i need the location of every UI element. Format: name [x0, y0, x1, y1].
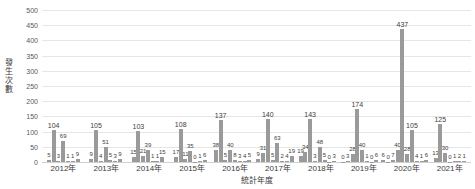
bar-item[interactable]: 63: [275, 10, 279, 162]
bar-item[interactable]: 1: [462, 10, 466, 162]
bar-item[interactable]: 5: [47, 10, 51, 162]
bar-item[interactable]: 125: [438, 10, 442, 162]
bar-item[interactable]: 17: [174, 10, 178, 162]
bar-item[interactable]: 30: [443, 10, 447, 162]
bar-item[interactable]: 1: [365, 10, 369, 162]
bar-item[interactable]: 1: [155, 10, 159, 162]
bar-item[interactable]: 5: [247, 10, 251, 162]
bar-item[interactable]: 69: [61, 10, 65, 162]
bar-item[interactable]: 28: [351, 10, 355, 162]
bar-item[interactable]: 19: [299, 10, 303, 162]
bar-item[interactable]: 6: [374, 10, 378, 162]
bar[interactable]: [410, 130, 414, 162]
bar-item[interactable]: 40: [396, 10, 400, 162]
bar[interactable]: [360, 150, 364, 162]
bar-item[interactable]: 40: [228, 10, 232, 162]
bar-item[interactable]: 4: [285, 10, 289, 162]
bar[interactable]: [104, 147, 108, 163]
bar-item[interactable]: 5: [108, 10, 112, 162]
bar-item[interactable]: 0: [193, 10, 197, 162]
bar[interactable]: [146, 150, 150, 162]
bar-item[interactable]: 1: [71, 10, 75, 162]
bar-item[interactable]: 8: [233, 10, 237, 162]
bar-item[interactable]: 1: [453, 10, 457, 162]
bar-item[interactable]: 174: [355, 10, 359, 162]
bar[interactable]: [52, 130, 56, 162]
bar-item[interactable]: 1: [198, 10, 202, 162]
bar-item[interactable]: 0: [327, 10, 331, 162]
bar-item[interactable]: 7: [391, 10, 395, 162]
bar-item[interactable]: 9: [89, 10, 93, 162]
bar-item[interactable]: 34: [303, 10, 307, 162]
bar-item[interactable]: 2: [280, 10, 284, 162]
bar-item[interactable]: 6: [424, 10, 428, 162]
bar-item[interactable]: 0: [341, 10, 345, 162]
bar[interactable]: [308, 119, 312, 162]
bar-item[interactable]: 15: [160, 10, 164, 162]
bar-item[interactable]: 3: [113, 10, 117, 162]
bar-item[interactable]: 19: [290, 10, 294, 162]
bar-item[interactable]: 437: [400, 10, 404, 162]
bar-value-label: 6: [203, 152, 206, 159]
bar-item[interactable]: 39: [146, 10, 150, 162]
bar[interactable]: [228, 150, 232, 162]
bar-item[interactable]: 35: [188, 10, 192, 162]
bar-item[interactable]: 0: [370, 10, 374, 162]
bar-item[interactable]: 15: [132, 10, 136, 162]
bar-item[interactable]: 108: [179, 10, 183, 162]
bar-item[interactable]: 5: [223, 10, 227, 162]
bar-item[interactable]: 1: [66, 10, 70, 162]
bar[interactable]: [351, 154, 355, 163]
bar-item[interactable]: 5: [323, 10, 327, 162]
bar-item[interactable]: 0: [386, 10, 390, 162]
bar-item[interactable]: 6: [203, 10, 207, 162]
bar-item[interactable]: 4: [415, 10, 419, 162]
bar[interactable]: [438, 124, 442, 162]
bar[interactable]: [443, 153, 447, 162]
bar-item[interactable]: 13: [434, 10, 438, 162]
bar-item[interactable]: 2: [457, 10, 461, 162]
bar[interactable]: [275, 143, 279, 162]
bar-item[interactable]: 104: [52, 10, 56, 162]
bar-item[interactable]: 9: [256, 10, 260, 162]
bar-item[interactable]: 105: [410, 10, 414, 162]
bar-item[interactable]: 140: [266, 10, 270, 162]
bar[interactable]: [214, 150, 218, 162]
bar[interactable]: [318, 147, 322, 162]
bar[interactable]: [219, 120, 223, 162]
bar-item[interactable]: 3: [332, 10, 336, 162]
bar[interactable]: [61, 141, 65, 162]
bar-item[interactable]: 105: [94, 10, 98, 162]
bar[interactable]: [136, 131, 140, 162]
bar[interactable]: [94, 130, 98, 162]
bar-item[interactable]: 103: [136, 10, 140, 162]
bar-item[interactable]: 3: [238, 10, 242, 162]
bar[interactable]: [355, 109, 359, 162]
bar-item[interactable]: 9: [76, 10, 80, 162]
bar-item[interactable]: 38: [214, 10, 218, 162]
bar-value-label: 3: [346, 153, 349, 160]
bar-item[interactable]: 6: [381, 10, 385, 162]
bar-item[interactable]: 11: [183, 10, 187, 162]
bar-item[interactable]: 28: [405, 10, 409, 162]
bar[interactable]: [188, 151, 192, 162]
bar[interactable]: [405, 154, 409, 163]
bar[interactable]: [396, 150, 400, 162]
bar-item[interactable]: 137: [219, 10, 223, 162]
bar-item[interactable]: 9: [118, 10, 122, 162]
bar-item[interactable]: 143: [308, 10, 312, 162]
bar-item[interactable]: 31: [261, 10, 265, 162]
bar-item[interactable]: 0: [448, 10, 452, 162]
bar-item[interactable]: 40: [360, 10, 364, 162]
bar-item[interactable]: 1: [151, 10, 155, 162]
bar[interactable]: [303, 152, 307, 162]
bar[interactable]: [261, 153, 265, 162]
bar[interactable]: [266, 119, 270, 162]
bar-item[interactable]: 4: [243, 10, 247, 162]
bar-item[interactable]: 3: [346, 10, 350, 162]
bar-item[interactable]: 1: [420, 10, 424, 162]
bar-item[interactable]: 48: [318, 10, 322, 162]
bar-item[interactable]: 51: [104, 10, 108, 162]
bar[interactable]: [400, 29, 404, 162]
bar-item[interactable]: 21: [141, 10, 145, 162]
